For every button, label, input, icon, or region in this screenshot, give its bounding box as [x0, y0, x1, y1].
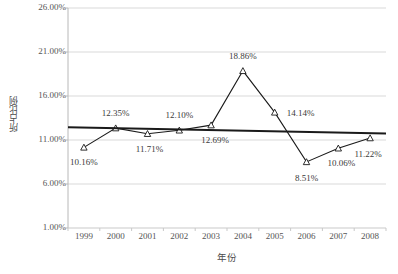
data-value-label: 12.69% [201, 136, 229, 145]
axis-tick-marks [64, 8, 386, 231]
data-value-label: 12.10% [165, 111, 193, 120]
data-value-label: 11.71% [136, 145, 163, 154]
x-tick-label: 2008 [353, 232, 387, 241]
x-tick-label: 2007 [321, 232, 355, 241]
data-value-label: 10.16% [70, 158, 98, 167]
x-tick-label: 2005 [258, 232, 292, 241]
x-tick-label: 2004 [226, 232, 260, 241]
data-value-label: 10.06% [327, 159, 355, 168]
data-value-label: 14.14% [287, 109, 315, 118]
x-axis-title: 年份 [68, 250, 386, 264]
chart-container: 所占比例 1.00%6.00%11.00%16.00%21.00%26.00% … [0, 0, 398, 274]
data-point-marker [303, 159, 309, 165]
data-value-label: 18.86% [229, 52, 257, 61]
data-value-label: 8.51% [295, 174, 318, 183]
data-point-marker [81, 144, 87, 150]
x-tick-label: 2006 [290, 232, 324, 241]
x-tick-label: 2002 [162, 232, 196, 241]
data-point-marker [367, 135, 373, 141]
x-tick-label: 2003 [194, 232, 228, 241]
x-tick-label: 1999 [67, 232, 101, 241]
x-tick-label: 2000 [99, 232, 133, 241]
data-value-label: 12.35% [102, 109, 130, 118]
x-tick-label: 2001 [131, 232, 165, 241]
data-point-marker [240, 68, 246, 74]
data-point-marker [208, 122, 214, 128]
data-value-label: 11.22% [354, 150, 381, 159]
